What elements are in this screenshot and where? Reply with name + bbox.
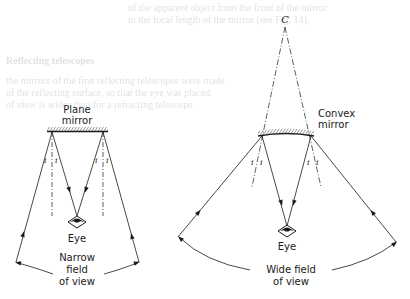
arrow-icon [129,233,135,240]
incident-ray [311,136,396,242]
fov-arc [332,243,395,270]
arrow-icon [133,260,140,266]
fov-label: of view [59,276,95,287]
arrow-icon [20,231,26,238]
fov-arc [180,238,250,270]
angle-i-label: i [55,156,58,165]
incident-ray [16,132,52,262]
reflected-ray [287,136,311,226]
convex-mirror-icon [258,129,314,137]
center-of-curvature-label: C [281,14,289,25]
eye-label: Eye [68,233,86,244]
angle-i-label: i [106,156,109,165]
reflected-ray [52,132,77,216]
incident-ray [103,132,139,262]
arrow-icon [15,260,22,266]
arrow-icon [66,186,72,193]
eye-icon [68,216,86,228]
incident-ray [178,136,262,237]
eye-label: Eye [278,241,296,252]
normal-line [252,27,285,187]
angle-i-label: i [95,156,98,165]
angle-i-label: i [316,158,319,167]
fov-label: field [66,264,88,275]
plane-mirror-icon [47,127,108,132]
fov-label: Narrow [59,252,95,263]
angle-i-label: i [260,158,263,167]
plane-mirror-label: Plane [63,104,90,115]
convex-mirror-label: mirror [318,119,349,130]
convex-mirror-label: Convex [318,108,355,119]
fov-arc [104,263,137,274]
convex-mirror-diagram: C Convex mirror i i i i E [177,14,399,287]
eye-icon [278,225,296,237]
angle-i-label: i [251,158,254,167]
plane-mirror-diagram: Plane mirror i i i i Eye [15,104,141,287]
fov-label: of view [273,276,309,287]
plane-mirror-label: mirror [62,115,93,126]
arrow-icon [291,199,297,206]
arrow-icon [83,186,89,193]
angle-i-label: i [44,156,47,165]
fov-label: Wide field [266,264,316,275]
angle-i-label: i [307,158,310,167]
reflected-ray [77,132,103,216]
mirror-field-of-view-diagram: Plane mirror i i i i Eye [0,0,410,299]
fov-arc [18,263,53,274]
reflected-ray [262,136,287,226]
